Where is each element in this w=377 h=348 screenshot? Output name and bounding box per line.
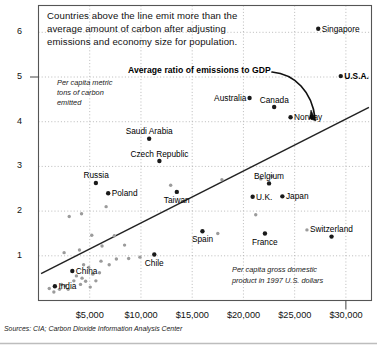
data-point-unlabeled xyxy=(99,259,102,262)
source-line: Sources: CIA; Carbon Dioxide Information… xyxy=(4,325,182,333)
infographic-root: Countries above the line emit more than … xyxy=(0,0,377,348)
data-point-unlabeled xyxy=(104,205,107,208)
data-point-unlabeled xyxy=(254,213,257,216)
data-point-unlabeled xyxy=(84,280,87,283)
data-point-singapore xyxy=(316,27,320,31)
trendline-annotation: Average ratio of emissions to GDP xyxy=(128,66,271,76)
data-point-unlabeled xyxy=(216,232,219,235)
data-point-unlabeled xyxy=(79,283,82,286)
data-point-unlabeled xyxy=(107,263,110,266)
data-point-unlabeled xyxy=(220,178,223,181)
headline-line-3: emissions and economy size for populatio… xyxy=(47,36,237,47)
plot-border xyxy=(39,6,372,301)
data-point-unlabeled xyxy=(68,215,71,218)
point-label-russia: Russia xyxy=(83,170,108,180)
data-point-belgium xyxy=(267,181,271,185)
data-point-unlabeled xyxy=(78,248,81,251)
y-tick-label-4: 4 xyxy=(6,116,22,126)
point-label-u-s-a: U.S.A. xyxy=(344,71,368,81)
data-point-india xyxy=(53,284,57,288)
data-point-unlabeled xyxy=(62,251,65,254)
data-point-switzerland xyxy=(329,234,333,238)
x-axis-caption-line-2: product in 1997 U.S. dollars xyxy=(232,276,323,286)
data-point-unlabeled xyxy=(115,257,118,260)
data-point-unlabeled xyxy=(48,287,51,290)
y-tick-label-1: 1 xyxy=(6,250,22,260)
data-point-france xyxy=(263,231,267,235)
y-tick-label-2: 2 xyxy=(6,205,22,215)
data-point-japan xyxy=(280,194,284,198)
point-label-switzerland: Switzerland xyxy=(310,224,353,234)
data-point-chile xyxy=(152,252,156,256)
data-point-australia xyxy=(247,96,251,100)
data-point-china xyxy=(70,269,74,273)
data-point-unlabeled xyxy=(127,257,130,260)
point-label-saudi-arabia: Saudi Arabia xyxy=(126,126,173,136)
y-tick-label-3: 3 xyxy=(6,160,22,170)
scatter-chart-canvas xyxy=(0,0,377,348)
data-point-saudi-arabia xyxy=(147,136,151,140)
point-label-france: France xyxy=(252,237,278,247)
y-tick-label-5: 5 xyxy=(6,71,22,81)
point-label-belgium: Belgium xyxy=(254,171,284,181)
y-tick-label-6: 6 xyxy=(6,26,22,36)
data-point-czech-republic xyxy=(157,159,161,163)
data-point-unlabeled xyxy=(169,183,172,186)
data-point-u-k xyxy=(250,195,254,199)
average-ratio-trendline xyxy=(41,107,369,273)
data-point-unlabeled xyxy=(123,243,126,246)
headline-line-2: average amount of carbon after adjusting xyxy=(47,23,226,34)
y-axis-caption-line-3: emitted xyxy=(57,98,81,108)
data-point-unlabeled xyxy=(52,290,55,293)
y-axis-caption-line-1: Per capita metric xyxy=(57,78,112,88)
point-label-u-k: U.K. xyxy=(256,192,272,202)
x-tick-label-10000: $10,000 xyxy=(125,310,158,321)
data-point-spain xyxy=(200,229,204,233)
point-label-chile: Chile xyxy=(145,258,164,268)
data-point-unlabeled xyxy=(94,279,97,282)
point-label-singapore: Singapore xyxy=(322,24,360,34)
point-label-poland: Poland xyxy=(112,188,138,198)
data-point-unlabeled xyxy=(90,234,93,237)
point-label-china: China xyxy=(76,266,98,276)
data-point-russia xyxy=(94,181,98,185)
data-point-unlabeled xyxy=(80,276,83,279)
data-point-unlabeled xyxy=(100,244,103,247)
data-point-unlabeled xyxy=(80,212,83,215)
x-tick-label-5000: $5,000 xyxy=(76,310,104,321)
data-point-unlabeled xyxy=(305,228,308,231)
point-label-czech-republic: Czech Republic xyxy=(130,149,188,159)
point-label-australia: Australia xyxy=(214,93,246,103)
point-label-india: India xyxy=(58,281,76,291)
point-label-norway: Norway xyxy=(294,112,322,122)
plot-frame xyxy=(39,6,372,301)
data-point-u-s-a xyxy=(339,74,343,78)
headline-line-1: Countries above the line emit more than … xyxy=(47,10,237,21)
point-label-japan: Japan xyxy=(286,191,309,201)
data-point-canada xyxy=(272,105,276,109)
x-axis-caption-line-1: Per capita gross domestic xyxy=(232,265,317,275)
x-tick-label-15000: $15,000 xyxy=(176,310,209,321)
data-point-norway xyxy=(288,115,292,119)
data-point-unlabeled xyxy=(89,285,92,288)
gridlines xyxy=(39,6,372,301)
data-point-unlabeled xyxy=(113,234,116,237)
data-point-unlabeled xyxy=(98,271,101,274)
data-point-unlabeled xyxy=(138,255,141,258)
trend-line xyxy=(41,107,369,273)
point-label-canada: Canada xyxy=(260,95,289,105)
x-tick-label-20000: $20,000 xyxy=(227,310,260,321)
x-tick-label-25000: $25,000 xyxy=(278,310,311,321)
x-tick-label-30000: $30,000 xyxy=(329,310,362,321)
point-label-spain: Spain xyxy=(192,234,213,244)
data-point-taiwan xyxy=(175,190,179,194)
data-point-poland xyxy=(106,191,110,195)
y-axis-caption-line-2: tons of carbon xyxy=(57,88,104,98)
point-label-taiwan: Taiwan xyxy=(164,195,190,205)
